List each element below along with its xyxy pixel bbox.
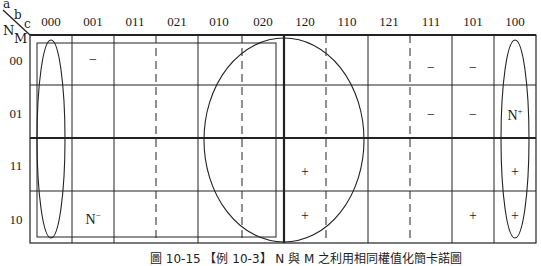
n-minus-sup: − <box>96 210 101 220</box>
cell-mark-minus: − <box>452 107 494 123</box>
column-header: 011 <box>114 14 156 30</box>
corner-label-m: M <box>14 32 27 45</box>
row-header: 00 <box>4 53 28 69</box>
column-header: 111 <box>410 14 452 30</box>
column-header: 121 <box>368 14 410 30</box>
cell-mark-minus: − <box>410 60 452 76</box>
column-header: 001 <box>72 14 114 30</box>
column-header: 100 <box>494 14 536 30</box>
column-header: 101 <box>452 14 494 30</box>
column-header: 120 <box>284 14 326 30</box>
row-header: 10 <box>4 212 28 228</box>
n-plus-sup: + <box>518 106 523 116</box>
cell-mark-n-plus: N+ <box>494 106 536 124</box>
figure-caption: 圖 10-15 【例 10-3】 N 與 M 之利用相同權值化簡卡諾圖 <box>150 249 462 266</box>
cell-mark-minus: − <box>452 60 494 76</box>
corner-label-n: N <box>3 24 14 37</box>
row-header: 01 <box>4 106 28 122</box>
n-plus-label: N <box>507 108 517 123</box>
column-header: 021 <box>156 14 198 30</box>
column-header: 010 <box>198 14 240 30</box>
cell-mark-plus: + <box>284 208 326 224</box>
row-header: 11 <box>4 158 28 174</box>
cell-mark-minus: − <box>72 52 114 68</box>
cell-mark-n-minus: N− <box>72 210 114 228</box>
column-header: 000 <box>30 14 72 30</box>
cell-mark-plus: + <box>494 164 536 180</box>
n-minus-label: N <box>85 212 95 227</box>
cell-mark-plus: + <box>284 164 326 180</box>
corner-label-b: b <box>14 9 22 21</box>
column-header: 020 <box>242 14 284 30</box>
cell-mark-minus: − <box>410 107 452 123</box>
column-header: 110 <box>326 14 368 30</box>
cell-mark-plus: + <box>452 208 494 224</box>
cell-mark-plus: + <box>494 208 536 224</box>
corner-label-a: a <box>3 0 10 10</box>
